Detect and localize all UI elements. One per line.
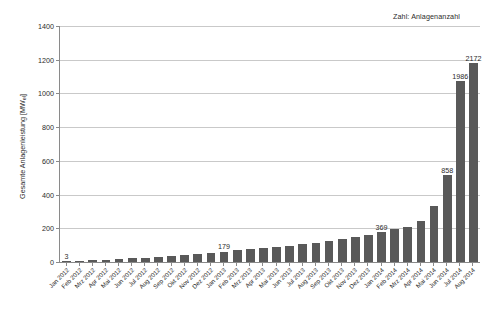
- chart-annotation: Zahl: Anlagenanzahl: [0, 12, 460, 21]
- x-tick-mark: [144, 263, 145, 266]
- bar-value-label: 3: [65, 253, 69, 260]
- x-tick-mark: [459, 263, 460, 266]
- x-tick-mark: [341, 263, 342, 266]
- bar[interactable]: [259, 248, 268, 262]
- y-tick-label: 1200: [38, 55, 54, 64]
- bar[interactable]: [207, 253, 216, 262]
- x-tick-slot: Jun 2012: [125, 263, 138, 269]
- x-tick-mark: [433, 263, 434, 266]
- bar-slot: [428, 26, 441, 262]
- bar[interactable]: [141, 258, 150, 262]
- bar-slot: [178, 26, 191, 262]
- bar-slot: [126, 26, 139, 262]
- bar[interactable]: 2172: [469, 63, 478, 262]
- bar[interactable]: 369: [377, 232, 386, 262]
- y-tick-label: 1400: [38, 22, 54, 31]
- x-tick-mark: [118, 263, 119, 266]
- x-tick-mark: [236, 263, 237, 266]
- bar-slot: 3: [60, 26, 73, 262]
- bar[interactable]: [75, 261, 84, 262]
- bar[interactable]: [272, 247, 281, 262]
- bar[interactable]: 1986: [456, 81, 465, 262]
- bar[interactable]: 179: [220, 252, 229, 262]
- x-tick-slot: Mrz 2013: [243, 263, 256, 269]
- x-tick-mark: [354, 263, 355, 266]
- bar[interactable]: [430, 206, 439, 262]
- x-tick-slot: Sep 2012: [164, 263, 177, 269]
- bar-slot: [336, 26, 349, 262]
- x-tick-slot: Aug 2012: [151, 263, 164, 269]
- bar-slot: [165, 26, 178, 262]
- bar[interactable]: [312, 243, 321, 262]
- bar[interactable]: 3: [62, 261, 71, 262]
- bar[interactable]: [325, 241, 334, 262]
- y-tick-label: 1000: [38, 89, 54, 98]
- bar[interactable]: [390, 229, 399, 262]
- x-tick-slot: Mai 2014: [427, 263, 440, 269]
- x-tick-slot: Mai 2013: [269, 263, 282, 269]
- bar-slot: [73, 26, 86, 262]
- bar-value-label: 179: [218, 243, 230, 250]
- bar[interactable]: [154, 257, 163, 262]
- y-tick-label: 0: [50, 258, 54, 267]
- bar[interactable]: [351, 237, 360, 262]
- bar-slot: [323, 26, 336, 262]
- bar-slot: [244, 26, 257, 262]
- bar[interactable]: [193, 254, 202, 262]
- bar[interactable]: [285, 246, 294, 262]
- bar[interactable]: [417, 221, 426, 262]
- x-tick-mark: [105, 263, 106, 266]
- bar[interactable]: [338, 239, 347, 262]
- x-tick-slot: Apr 2013: [256, 263, 269, 269]
- bar[interactable]: [102, 260, 111, 262]
- x-tick-mark: [367, 263, 368, 266]
- bar[interactable]: 858: [443, 175, 452, 262]
- bar-slot: [401, 26, 414, 262]
- bar[interactable]: [233, 250, 242, 262]
- x-tick-slot: Apr 2012: [98, 263, 111, 269]
- x-tick-mark: [131, 263, 132, 266]
- x-tick-mark: [289, 263, 290, 266]
- bar-slot: 369: [375, 26, 388, 262]
- x-tick-slot: Jul 2012: [138, 263, 151, 269]
- bar-value-label: 2172: [465, 55, 481, 62]
- bar[interactable]: [88, 260, 97, 262]
- x-tick-slot: Dez 2013: [361, 263, 374, 269]
- bar-slot: [152, 26, 165, 262]
- y-tick-label: 400: [42, 190, 54, 199]
- x-tick-slot: Jan 2013: [217, 263, 230, 269]
- bar[interactable]: [180, 255, 189, 262]
- x-tick-slot: Mai 2012: [112, 263, 125, 269]
- annotation-text: Zahl: Anlagenanzahl: [393, 12, 460, 21]
- x-tick-slot: Sep 2013: [322, 263, 335, 269]
- bar[interactable]: [298, 244, 307, 262]
- y-tick-label: 200: [42, 224, 54, 233]
- x-tick-slot: Okt 2012: [177, 263, 190, 269]
- x-tick-mark: [79, 263, 80, 266]
- bar[interactable]: [364, 235, 373, 262]
- x-tick-mark: [394, 263, 395, 266]
- bar-slot: [113, 26, 126, 262]
- bar[interactable]: [403, 227, 412, 262]
- y-axis-title-subscript: el: [21, 96, 27, 100]
- bar[interactable]: [167, 256, 176, 262]
- bars-group: 317936985819862172: [60, 26, 480, 262]
- x-tick-slot: Jun 2014: [440, 263, 453, 269]
- bar-slot: [99, 26, 112, 262]
- bar-slot: [309, 26, 322, 262]
- x-tick-mark: [66, 263, 67, 266]
- bar[interactable]: [115, 259, 124, 262]
- x-axis-ticks: Jan 2012Feb 2012Mrz 2012Apr 2012Mai 2012…: [59, 263, 479, 269]
- x-tick-mark: [157, 263, 158, 266]
- y-tick-label: 800: [42, 123, 54, 132]
- x-tick-slot: Jul 2013: [295, 263, 308, 269]
- bar-slot: [414, 26, 427, 262]
- x-tick-slot: Feb 2014: [387, 263, 400, 269]
- bar-slot: 2172: [467, 26, 480, 262]
- x-tick-slot: Aug 2013: [308, 263, 321, 269]
- bar[interactable]: [246, 249, 255, 262]
- x-tick-mark: [276, 263, 277, 266]
- x-tick-mark: [407, 263, 408, 266]
- x-tick-slot: Dez 2012: [203, 263, 216, 269]
- bar[interactable]: [128, 258, 137, 262]
